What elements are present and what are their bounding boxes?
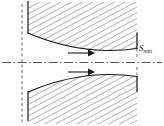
nozzle-diagram-svg bbox=[0, 0, 164, 126]
min-section-label: Smin bbox=[139, 44, 152, 53]
lower-flow-arrow bbox=[68, 69, 95, 76]
upper-body-hatch-fill bbox=[28, 2, 137, 51]
upper-flow-arrow-head bbox=[88, 50, 95, 57]
upper-nozzle-body bbox=[28, 1, 137, 51]
lower-body-hatch-fill bbox=[28, 74, 137, 124]
upper-flow-arrow bbox=[68, 50, 95, 57]
nozzle-diagram-figure: Smin bbox=[0, 0, 164, 126]
min-section-subscript: min bbox=[143, 48, 151, 54]
lower-flow-arrow-head bbox=[88, 69, 95, 76]
lower-nozzle-body bbox=[28, 74, 137, 124]
